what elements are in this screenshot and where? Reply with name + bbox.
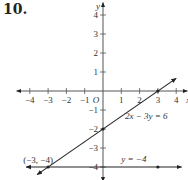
x-tick-label: −4 xyxy=(25,95,35,105)
x-tick-label: 1 xyxy=(119,95,124,105)
y-tick-label: −3 xyxy=(88,143,98,153)
x-tick-label: 3 xyxy=(156,95,161,105)
y-tick-label: 1 xyxy=(94,67,99,77)
x-tick-label: −3 xyxy=(43,95,53,105)
series-label-slanted: 2x − 3y = 6 xyxy=(125,111,168,121)
y-tick-label: 3 xyxy=(94,29,99,39)
y-tick-label: −1 xyxy=(88,105,98,115)
x-tick-label: −1 xyxy=(80,95,90,105)
data-point xyxy=(156,89,159,92)
y-axis-label: y xyxy=(95,1,100,11)
x-tick-label: 4 xyxy=(174,95,179,105)
y-tick-label: −2 xyxy=(88,124,98,134)
origin-label: O xyxy=(93,95,100,105)
y-tick-label: 2 xyxy=(94,48,99,58)
data-point xyxy=(101,127,104,130)
data-point xyxy=(47,165,50,168)
x-axis-label: x xyxy=(185,95,188,105)
coordinate-graph: −4−3−2−112344321−1−2−3−4 xyO2x − 3y = 6y… xyxy=(0,0,188,180)
data-point xyxy=(156,165,159,168)
point-label: (−3, −4) xyxy=(23,155,53,165)
x-tick-label: −2 xyxy=(62,95,72,105)
y-tick-label: 4 xyxy=(94,10,99,20)
series-label-horizontal: y = −4 xyxy=(120,154,147,164)
series-line-slanted xyxy=(37,78,176,174)
